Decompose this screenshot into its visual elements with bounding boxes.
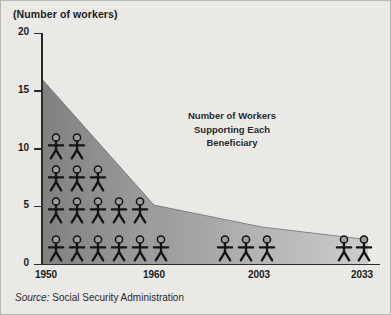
annotation-line-1: Number of Workers bbox=[169, 109, 295, 123]
y-tick-mark-5 bbox=[34, 206, 42, 208]
pictogram-row-2033 bbox=[337, 236, 371, 261]
chart-figure: (Number of workers) bbox=[0, 0, 391, 315]
pictogram-row-1950-bottom bbox=[49, 236, 168, 261]
y-tick-mark-10 bbox=[34, 148, 42, 150]
source-text: Social Security Administration bbox=[52, 292, 184, 303]
y-tick-label-15: 15 bbox=[18, 84, 29, 95]
y-tick-mark-15 bbox=[34, 90, 42, 92]
x-axis-line bbox=[41, 264, 380, 266]
x-tick-label-1960: 1960 bbox=[143, 269, 165, 280]
pictogram-row-2003 bbox=[218, 236, 274, 261]
source-note: Source: Social Security Administration bbox=[15, 292, 184, 303]
y-axis-title: (Number of workers) bbox=[13, 8, 118, 20]
x-tick-label-1950: 1950 bbox=[35, 269, 57, 280]
y-tick-mark-20 bbox=[34, 33, 42, 35]
y-tick-label-0: 0 bbox=[23, 257, 29, 268]
y-tick-label-5: 5 bbox=[23, 199, 29, 210]
y-tick-label-20: 20 bbox=[18, 26, 29, 37]
annotation-line-3: Beneficiary bbox=[169, 136, 295, 150]
pictogram-row-1950-third bbox=[49, 198, 147, 223]
x-tick-label-2033: 2033 bbox=[351, 269, 373, 280]
y-tick-label-10: 10 bbox=[18, 142, 29, 153]
chart-annotation: Number of Workers Supporting Each Benefi… bbox=[169, 109, 295, 150]
pictogram-row-1950-second bbox=[49, 166, 105, 191]
pictogram-row-1950-top bbox=[49, 134, 84, 159]
source-label: Source: bbox=[15, 292, 49, 303]
annotation-line-2: Supporting Each bbox=[169, 123, 295, 137]
x-tick-label-2003: 2003 bbox=[248, 269, 270, 280]
y-tick-mark-0 bbox=[34, 264, 42, 266]
